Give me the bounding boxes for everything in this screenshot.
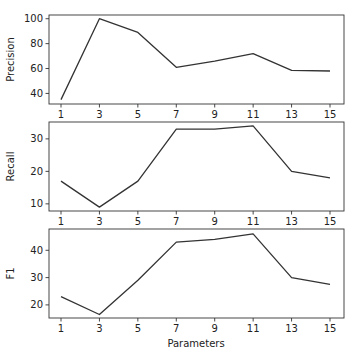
x-tick-label: 7 bbox=[173, 323, 179, 334]
x-tick-label: 13 bbox=[285, 323, 298, 334]
subplot-precision: 13579111315406080100Precision bbox=[5, 13, 344, 120]
x-tick-label: 9 bbox=[212, 109, 218, 120]
x-tick-label: 1 bbox=[58, 109, 64, 120]
y-axis-label: F1 bbox=[5, 267, 16, 279]
subplot-f1: 13579111315203040F1 bbox=[5, 229, 344, 334]
x-tick-label: 1 bbox=[58, 323, 64, 334]
figure: 13579111315406080100Precision 1357911131… bbox=[0, 0, 357, 358]
x-tick-label: 11 bbox=[247, 323, 260, 334]
plot-frame bbox=[49, 15, 344, 104]
x-tick-label: 3 bbox=[96, 216, 102, 227]
x-tick-label: 3 bbox=[96, 109, 102, 120]
subplot-recall: 13579111315102030Recall bbox=[5, 122, 344, 227]
x-axis-label: Parameters bbox=[167, 338, 224, 349]
x-tick-label: 5 bbox=[135, 109, 141, 120]
y-axis-label: Recall bbox=[5, 152, 16, 182]
y-tick-label: 40 bbox=[30, 88, 43, 99]
x-tick-label: 7 bbox=[173, 109, 179, 120]
x-tick-label: 15 bbox=[324, 216, 337, 227]
plot-frame bbox=[49, 229, 344, 318]
y-tick-label: 20 bbox=[30, 299, 43, 310]
x-tick-label: 11 bbox=[247, 216, 260, 227]
y-tick-label: 100 bbox=[24, 13, 43, 24]
y-tick-label: 30 bbox=[30, 133, 43, 144]
x-tick-label: 5 bbox=[135, 216, 141, 227]
y-tick-label: 60 bbox=[30, 63, 43, 74]
y-tick-label: 40 bbox=[30, 245, 43, 256]
y-tick-label: 30 bbox=[30, 272, 43, 283]
x-tick-label: 7 bbox=[173, 216, 179, 227]
x-tick-label: 9 bbox=[212, 323, 218, 334]
x-tick-label: 11 bbox=[247, 109, 260, 120]
x-tick-label: 15 bbox=[324, 323, 337, 334]
x-tick-label: 13 bbox=[285, 109, 298, 120]
x-tick-label: 3 bbox=[96, 323, 102, 334]
y-tick-label: 80 bbox=[30, 38, 43, 49]
x-tick-label: 1 bbox=[58, 216, 64, 227]
data-line bbox=[61, 234, 330, 315]
y-axis-label: Precision bbox=[5, 37, 16, 82]
y-tick-label: 10 bbox=[30, 198, 43, 209]
x-tick-label: 13 bbox=[285, 216, 298, 227]
plot-frame bbox=[49, 122, 344, 211]
data-line bbox=[61, 126, 330, 207]
data-line bbox=[61, 19, 330, 100]
x-tick-label: 9 bbox=[212, 216, 218, 227]
x-tick-label: 5 bbox=[135, 323, 141, 334]
y-tick-label: 20 bbox=[30, 166, 43, 177]
x-tick-label: 15 bbox=[324, 109, 337, 120]
